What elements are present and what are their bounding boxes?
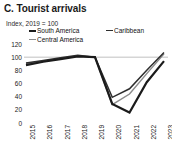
x-axis-tick-label: 2017 <box>64 125 71 139</box>
y-axis-tick-label: 80 <box>15 67 22 74</box>
y-axis-tick-label: 120 <box>11 41 22 48</box>
legend-label: South America <box>37 27 79 34</box>
x-axis-tick-label: 2020 <box>115 125 122 139</box>
x-axis-tick-label: 2022 <box>150 125 157 139</box>
y-axis-tick-label: 20 <box>15 106 22 113</box>
y-axis-tick-label: 100 <box>11 54 22 61</box>
chart-panel: C. Tourist arrivals Index, 2019 = 100 So… <box>0 0 172 155</box>
x-axis-tick-label: 2023 <box>167 125 172 139</box>
x-axis-tick-label: 2015 <box>29 125 36 139</box>
legend-item-caribbean: Caribbean <box>106 27 144 34</box>
plot-area <box>24 44 168 123</box>
y-axis-tick-label: 60 <box>15 80 22 87</box>
legend-label: Central America <box>37 36 83 43</box>
legend-swatch-icon <box>106 30 113 31</box>
y-axis-tick-label: 40 <box>15 93 22 100</box>
legend-swatch-icon <box>29 30 36 32</box>
legend-swatch-icon <box>29 39 36 40</box>
x-axis-tick-label: 2016 <box>46 125 53 139</box>
x-axis-tick-label: 2018 <box>81 125 88 139</box>
legend-item-south-america: South America <box>29 27 79 34</box>
y-axis: 120100806040200 <box>0 0 24 155</box>
legend-label: Caribbean <box>114 27 144 34</box>
x-axis-tick-label: 2021 <box>133 125 140 139</box>
x-axis: 201520162017201820192020202120222023 <box>24 124 168 155</box>
x-axis-tick-label: 2019 <box>98 125 105 139</box>
y-axis-tick-label: 0 <box>18 120 22 127</box>
line-chart-svg <box>24 44 168 123</box>
series-line-south-america <box>26 57 164 113</box>
legend-item-central-america: Central America <box>29 36 83 43</box>
